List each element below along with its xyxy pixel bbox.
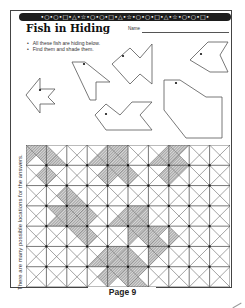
grid-vertex-dot [188,164,190,166]
grid-vertex-dot [107,225,109,227]
fish-eye-icon [122,55,124,57]
grid-vertex-dot [86,205,88,207]
shaded-triangle[interactable] [169,226,179,246]
grid-vertex-dot [168,245,170,247]
grid-vertex-dot [45,266,47,268]
side-note: There are many possible locations for th… [17,154,23,290]
shaded-triangle[interactable] [46,165,56,185]
fish-eye-icon [105,113,107,115]
grid-vertex-dot [168,185,170,187]
fish-eye-icon [83,63,85,65]
grid-vertex-dot [86,245,88,247]
grid-vertex-dot [147,245,149,247]
fish-eye-icon [175,82,177,84]
grid-vertex-dot [168,205,170,207]
grid-vertex-dot [45,185,47,187]
grid-vertex-dot [147,225,149,227]
grid-vertex-dot [107,185,109,187]
fish-eye-icon [39,89,41,91]
grid-vertex-dot [45,225,47,227]
grid-vertex-dot [127,205,129,207]
shaded-triangle[interactable] [97,267,107,287]
page-title: Fish in Hiding [26,22,110,34]
shaded-triangle[interactable] [87,206,97,226]
fish-shape [95,102,152,130]
grid-vertex-dot [66,266,68,268]
grid-vertex-dot [127,266,129,268]
grid-vertex-dot [147,266,149,268]
tangram-grid[interactable] [26,145,230,287]
grid-vertex-dot [147,164,149,166]
page-number: Page 9 [0,287,245,297]
grid-vertex-dot [209,164,211,166]
fish-shape [26,78,55,113]
grid-vertex-dot [45,205,47,207]
grid-lines [26,145,230,287]
grid-vertex-dot [45,164,47,166]
grid-vertex-dot [127,164,129,166]
grid-vertex-dot [188,245,190,247]
grid-vertex-dot [168,225,170,227]
grid-vertex-dot [127,185,129,187]
fish-shape [112,44,152,84]
corner-mark [232,303,241,308]
grid-vertex-dot [168,164,170,166]
grid-vertex-dot [107,164,109,166]
grid-vertex-dot [107,245,109,247]
grid-vertex-dot [209,245,211,247]
grid-vertex-dot [107,205,109,207]
grid-vertex-dot [66,225,68,227]
shaded-triangle[interactable] [57,186,67,206]
grid-vertex-dot [127,225,129,227]
fish-shape [72,62,110,100]
fish-shape [164,80,222,138]
shaded-triangle[interactable] [36,165,46,185]
grid-vertex-dot [188,266,190,268]
grid-vertex-dot [209,266,211,268]
grid-vertex-dot [107,266,109,268]
name-label: Name [128,26,140,31]
fish-shapes-area [0,40,245,140]
shaded-triangle[interactable] [159,165,169,185]
grid-vertex-dot [86,266,88,268]
shaded-triangle[interactable] [97,165,107,185]
grid-vertex-dot [66,185,68,187]
shaded-triangle[interactable] [128,165,138,185]
grid-vertex-dot [45,245,47,247]
grid-vertex-dot [86,185,88,187]
grid-vertex-dot [209,225,211,227]
grid-vertex-dot [66,245,68,247]
grid-vertex-dot [127,245,129,247]
grid-vertex-dot [86,225,88,227]
fish-eye-icon [200,53,202,55]
grid-vertex-dot [168,266,170,268]
grid-vertex-dot [147,205,149,207]
fish-shape [190,42,228,72]
grid-vertex-dot [66,164,68,166]
shaded-triangle[interactable] [87,226,97,246]
name-field-line[interactable] [142,32,229,33]
grid-vertex-dot [188,205,190,207]
grid-vertex-dot [86,164,88,166]
grid-vertex-dot [188,185,190,187]
grid-vertex-dot [147,185,149,187]
grid-vertex-dot [209,205,211,207]
grid-vertex-dot [66,205,68,207]
decorative-banner: •○•○•□•△•☆•○•○•□•△•☆•○•○•□•△•☆•○•○•□• [19,13,231,21]
grid-vertex-dot [209,185,211,187]
grid-vertex-dot [188,225,190,227]
